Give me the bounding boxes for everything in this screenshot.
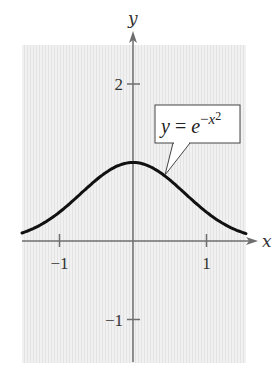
plot-area: [22, 45, 246, 363]
y-tick-label: 2: [115, 75, 124, 94]
y-tick-label: −1: [105, 311, 123, 330]
y-axis-label: y: [127, 8, 138, 28]
x-axis-label: x: [262, 231, 272, 251]
chart: −112−1 y x y = e−x2: [0, 0, 279, 370]
x-tick-label: −1: [50, 254, 68, 273]
x-tick-label: 1: [202, 254, 211, 273]
